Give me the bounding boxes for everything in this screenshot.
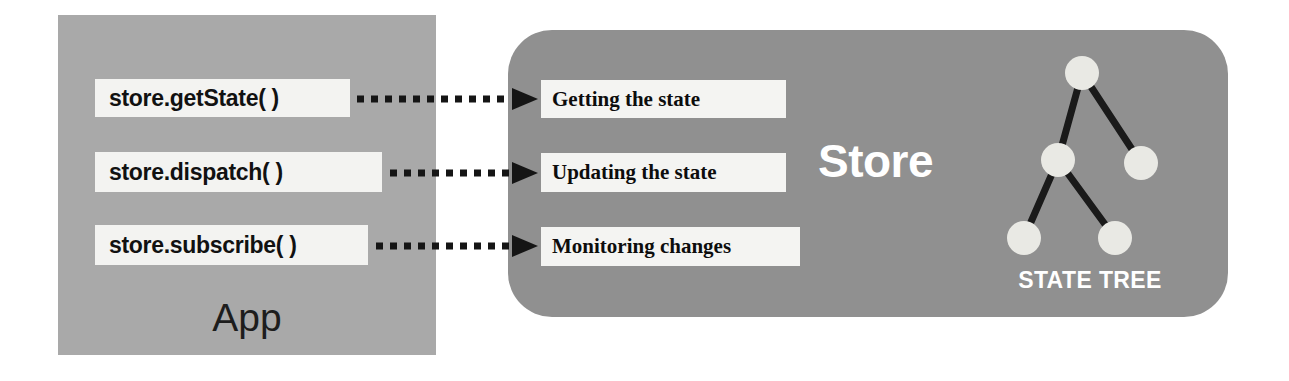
action-chip-monitoring-changes[interactable]: Monitoring changes (541, 227, 800, 266)
state-tree-label: STATE TREE (980, 266, 1200, 294)
method-chip-dispatch[interactable]: store.dispatch( ) (95, 152, 382, 192)
dotted-arrow-get-state (357, 87, 536, 111)
state-tree-graphic (990, 40, 1190, 260)
action-chip-getting-the-state[interactable]: Getting the state (541, 80, 786, 118)
store-panel-label: Store (818, 134, 933, 188)
dotted-arrow-subscribe (376, 234, 536, 258)
diagram-canvas: App Store store.getState( ) store.dispat… (0, 0, 1289, 381)
action-chip-updating-the-state[interactable]: Updating the state (541, 153, 786, 192)
dotted-arrow-dispatch (390, 161, 536, 185)
method-chip-get-state[interactable]: store.getState( ) (95, 79, 350, 117)
app-panel-label: App (58, 296, 436, 340)
method-chip-subscribe[interactable]: store.subscribe( ) (95, 225, 368, 265)
